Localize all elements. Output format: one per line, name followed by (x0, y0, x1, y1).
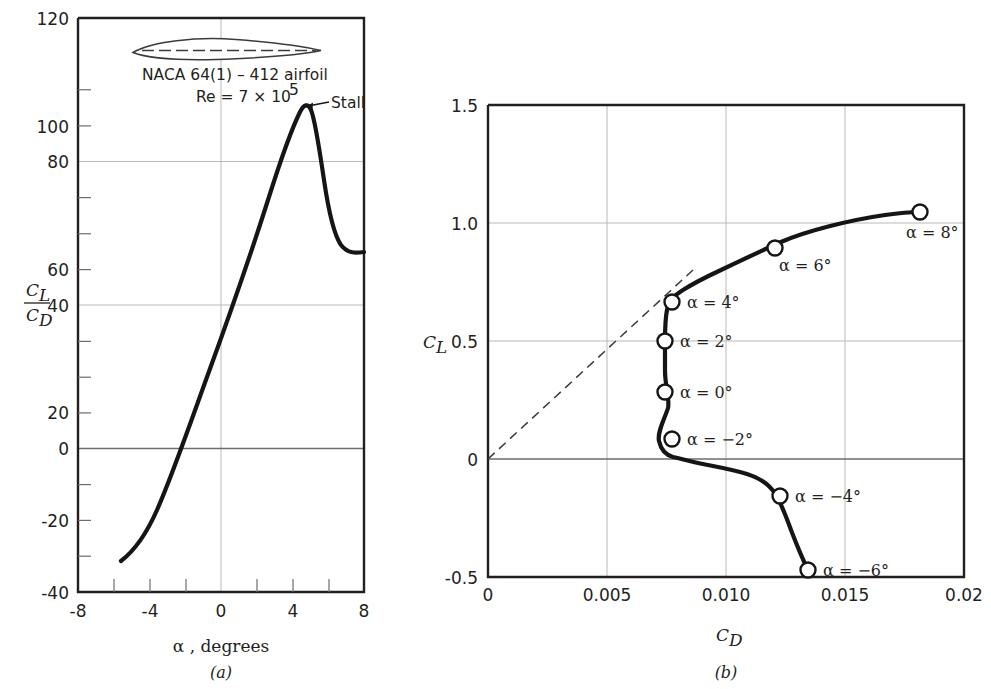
panel-b-xlabel-main: C (716, 625, 729, 645)
panel-b-ytick-label-05: 0.5 (451, 332, 478, 352)
y-axis-denominator: C (26, 305, 39, 325)
panel-a-ytick-label-minus20: -20 (41, 511, 69, 531)
panel-b: 1.5 1.0 0.5 0 -0.5 0 0.005 0.010 0.015 0… (423, 96, 983, 682)
data-point-label-alpha-minus2: α = −2° (687, 430, 753, 449)
data-point-label-alpha-2: α = 2° (680, 332, 733, 351)
panel-a-xtick-label-4: 4 (288, 601, 299, 621)
panel-a-ytick-label-80: 80 (47, 152, 69, 172)
data-point-marker[interactable] (768, 241, 783, 256)
data-point-marker[interactable] (658, 385, 673, 400)
data-point-label-alpha-4: α = 4° (687, 293, 740, 312)
panel-b-xtick-label-002: 0.02 (945, 585, 983, 605)
panel-b-xlabel-sub: D (728, 630, 743, 650)
naca-airfoil-label: NACA 64(1) – 412 airfoil (142, 66, 328, 84)
panel-a-xtick-label-8: 8 (359, 601, 370, 621)
reynolds-number-label: Re = 7 × 10 5 (196, 81, 299, 106)
data-point-label-alpha-minus6: α = −6° (823, 561, 889, 580)
data-point-marker[interactable] (658, 334, 673, 349)
data-point-label-alpha-minus4: α = −4° (795, 487, 861, 506)
data-point-label-alpha-6: α = 6° (779, 256, 832, 275)
panel-b-xtick-label-0015: 0.015 (821, 585, 870, 605)
reynolds-label-text: Re = 7 × 10 (196, 88, 291, 106)
panel-b-xtick-label-0: 0 (483, 585, 494, 605)
panel-b-xtick-label-0005: 0.005 (583, 585, 632, 605)
figure-svg: 120 100 80 60 40 20 0 -20 -40 -8 -4 0 4 … (0, 0, 991, 689)
airfoil-diagram (133, 39, 321, 60)
panel-b-x-axis-title: C D (716, 625, 743, 650)
data-point-label-alpha-8: α = 8° (906, 223, 959, 242)
panel-b-ylabel-sub: L (435, 337, 447, 357)
data-point-marker[interactable] (773, 489, 788, 504)
tangent-dashed-line (488, 270, 693, 459)
panel-a-y-ticks (78, 90, 91, 556)
panel-b-ytick-label-15: 1.5 (451, 96, 478, 116)
panel-a-xtick-label-minus8: -8 (70, 601, 87, 621)
stall-label: Stall (331, 94, 365, 112)
panel-b-ylabel-main: C (423, 332, 436, 352)
panel-a-ytick-label-minus40: -40 (41, 583, 69, 603)
airfoil-shape (133, 39, 321, 60)
panel-a-ytick-label-60: 60 (47, 260, 69, 280)
stall-annotation: Stall (305, 94, 365, 112)
panel-a-xtick-label-minus4: -4 (142, 601, 159, 621)
y-axis-denominator-sub: D (38, 310, 53, 330)
data-point-marker[interactable] (801, 563, 816, 578)
y-axis-numerator-sub: L (38, 285, 50, 305)
data-point-label-alpha-0: α = 0° (680, 383, 733, 402)
data-point-marker[interactable] (913, 205, 928, 220)
panel-a-xlabel: α , degrees (173, 636, 270, 656)
panel-b-caption: (b) (715, 663, 738, 682)
panel-a-xtick-label-0: 0 (216, 601, 227, 621)
data-point-marker[interactable] (665, 432, 680, 447)
panel-b-xtick-label-0010: 0.010 (702, 585, 751, 605)
panel-b-y-axis-title: C L (423, 332, 447, 357)
panel-b-ytick-label-10: 1.0 (451, 214, 478, 234)
panel-a-x-axis-title: α , degrees (173, 636, 270, 656)
panel-a-ytick-label-0: 0 (58, 439, 69, 459)
panel-a: 120 100 80 60 40 20 0 -20 -40 -8 -4 0 4 … (24, 9, 369, 682)
figure-container: 120 100 80 60 40 20 0 -20 -40 -8 -4 0 4 … (0, 0, 991, 689)
panel-a-ytick-label-100: 100 (37, 117, 69, 137)
reynolds-label-exponent: 5 (289, 81, 299, 99)
panel-b-ytick-label-0: 0 (467, 450, 478, 470)
panel-a-ytick-label-120: 120 (37, 9, 69, 29)
y-axis-numerator: C (26, 280, 39, 300)
panel-b-ytick-label-minus05: -0.5 (445, 568, 478, 588)
panel-a-caption: (a) (210, 663, 232, 682)
data-point-marker[interactable] (665, 295, 680, 310)
panel-a-data-curve (121, 105, 364, 561)
panel-a-ytick-label-20: 20 (47, 403, 69, 423)
